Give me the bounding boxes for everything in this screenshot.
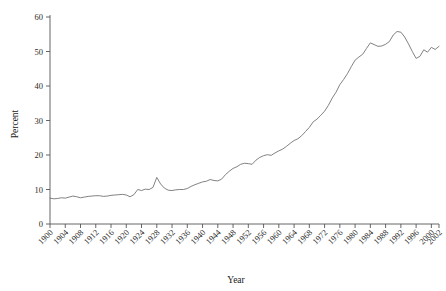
chart-figure: 0102030405060 19001904190819121916192019… bbox=[0, 0, 446, 291]
y-axis-tick-label: 0 bbox=[39, 219, 43, 229]
y-axis-tick-label: 30 bbox=[35, 116, 44, 126]
y-axis-tick-label: 40 bbox=[35, 81, 44, 91]
y-axis-tick-label: 20 bbox=[35, 150, 44, 160]
x-axis-tick-label: 1972 bbox=[310, 227, 329, 246]
x-axis-tick-label: 1960 bbox=[265, 227, 284, 246]
x-axis-tick-label: 1916 bbox=[97, 227, 116, 246]
x-axis-tick-label: 1900 bbox=[36, 227, 55, 246]
y-axis-tick-label: 60 bbox=[35, 12, 44, 22]
x-axis-tick-label: 1996 bbox=[402, 227, 421, 246]
x-axis-tick-label: 1976 bbox=[326, 227, 345, 246]
x-axis: 1900190419081912191619201924192819321936… bbox=[36, 224, 444, 246]
x-axis-tick-label: 1940 bbox=[188, 227, 207, 246]
y-axis-tick-label: 10 bbox=[35, 185, 44, 195]
x-axis-tick-label: 1912 bbox=[82, 227, 101, 246]
x-axis-tick-label: 1956 bbox=[249, 227, 268, 246]
x-axis-tick-label: 1920 bbox=[112, 227, 131, 246]
x-axis-tick-label: 1908 bbox=[66, 227, 85, 246]
x-axis-tick-label: 1932 bbox=[158, 227, 177, 246]
data-series-group bbox=[50, 31, 439, 198]
y-axis-title: Percent bbox=[10, 109, 20, 138]
x-axis-title: Year bbox=[227, 275, 245, 285]
x-axis-tick-label: 1968 bbox=[295, 227, 314, 246]
x-axis-tick-label: 1928 bbox=[143, 227, 162, 246]
x-axis-tick-label: 1992 bbox=[387, 227, 406, 246]
x-axis-tick-label: 1936 bbox=[173, 227, 192, 246]
x-axis-tick-label: 1952 bbox=[234, 227, 253, 246]
y-axis: 0102030405060 bbox=[35, 12, 51, 229]
data-line bbox=[50, 31, 439, 198]
line-chart: 0102030405060 19001904190819121916192019… bbox=[0, 0, 446, 291]
y-axis-tick-label: 50 bbox=[35, 47, 44, 57]
x-axis-tick-label: 1948 bbox=[219, 227, 238, 246]
x-axis-tick-label: 1988 bbox=[371, 227, 390, 246]
x-axis-tick-label: 1980 bbox=[341, 227, 360, 246]
